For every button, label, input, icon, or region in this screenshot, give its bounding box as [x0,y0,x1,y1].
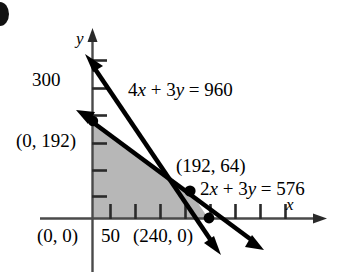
equation-label-line2: 2x + 3y = 576 [200,179,305,198]
y-tick-label-300: 300 [32,70,61,89]
x-tick-label-50: 50 [101,226,120,245]
y-axis-label: y [76,30,84,47]
equation-text-line2: 2x + 3y = 576 [200,178,305,199]
point-label-0-192: (0, 192) [16,131,76,150]
point-dot-0-192 [88,116,98,126]
linear-programming-graph: y x 300 (0, 192) (0, 0) 50 (240, 0) (192… [0,0,348,279]
point-label-192-64: (192, 64) [176,156,246,175]
equation-text-line1: 4x + 3y = 960 [128,79,233,100]
point-dot-192-64 [184,185,195,196]
point-label-origin: (0, 0) [37,226,78,245]
equation-label-line1: 4x + 3y = 960 [128,80,233,99]
point-label-240-0: (240, 0) [133,226,193,245]
point-dot-240-0 [204,213,215,224]
